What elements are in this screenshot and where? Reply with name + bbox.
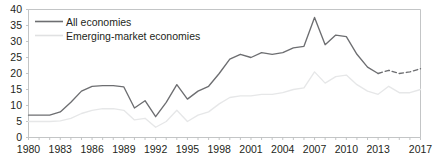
y-axis-tick-label: 30: [0, 36, 22, 46]
y-axis-tick-label: 40: [0, 4, 22, 14]
chart-container: 4035302520151050 19801983198619891992199…: [0, 0, 440, 166]
y-axis-tick-label: 35: [0, 20, 22, 30]
legend-label-emerging-market-economies: Emerging-market economies: [66, 30, 200, 42]
y-axis-tick-label: 25: [0, 52, 22, 62]
y-axis-tick-label: 5: [0, 116, 22, 126]
y-axis-tick-label: 15: [0, 84, 22, 94]
y-axis-tick-label: 0: [0, 132, 22, 142]
y-axis-tick-label: 10: [0, 100, 22, 110]
chart-axes: [29, 10, 421, 138]
y-axis-tick-label: 20: [0, 68, 22, 78]
legend-label-all-economies: All economies: [66, 16, 131, 28]
chart-legend-swatches: [35, 22, 63, 36]
x-axis-tick-label: 2013: [358, 144, 398, 155]
x-axis-tick-label: 2017: [401, 144, 440, 155]
